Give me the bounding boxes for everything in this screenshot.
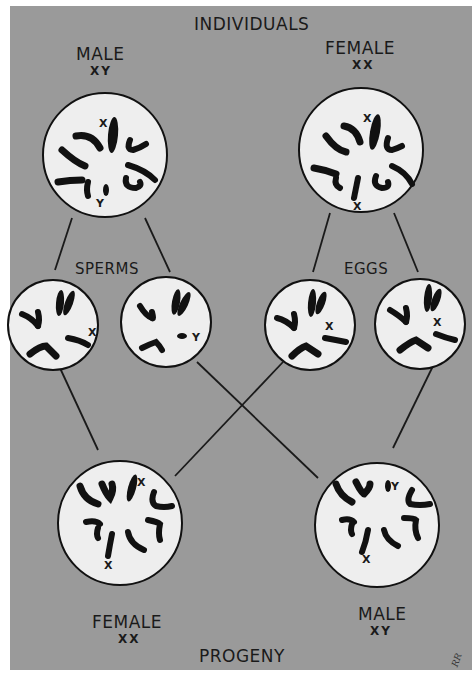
label-eggs: EGGS <box>344 260 388 278</box>
line-egg-1-to-female-progeny <box>175 362 283 476</box>
genotype-male-progeny: XY <box>370 624 392 638</box>
line-male-to-sperm-y <box>145 218 170 272</box>
title-individuals: INDIVIDUALS <box>194 14 309 34</box>
cell-sperm-x <box>8 280 98 370</box>
connector-lines <box>55 213 433 478</box>
cell-male-progeny <box>315 463 439 587</box>
egg-1-x-label: X <box>325 320 335 333</box>
male-parent-y-label: Y <box>96 197 106 210</box>
genotype-male-parent: XY <box>90 64 112 78</box>
female-parent-x2-label: X <box>353 200 363 213</box>
cell-female-progeny <box>58 461 182 585</box>
sex-determination-diagram <box>0 0 474 675</box>
male-parent-x-label: X <box>99 117 109 130</box>
egg-2-x-label: X <box>433 316 443 329</box>
cell-female-parent <box>299 88 423 212</box>
line-male-to-sperm-x <box>55 218 72 270</box>
cell-egg-1 <box>265 280 355 370</box>
label-male-progeny: MALE <box>358 604 407 624</box>
female-progeny-x2-label: X <box>104 559 114 572</box>
line-female-to-egg-2 <box>394 213 418 272</box>
line-female-to-egg-1 <box>313 213 330 272</box>
male-progeny-y-label: Y <box>391 480 401 493</box>
label-female-progeny: FEMALE <box>92 612 162 632</box>
label-sperms: SPERMS <box>75 260 139 278</box>
cell-sperm-y <box>121 277 211 367</box>
line-egg-2-to-male-progeny <box>393 366 433 448</box>
sperm-y-label: Y <box>192 331 202 344</box>
title-progeny: PROGENY <box>199 646 285 666</box>
female-progeny-x1-label: X <box>137 476 147 489</box>
line-sperm-y-to-male-progeny <box>197 362 318 478</box>
genotype-female-parent: XX <box>352 58 375 72</box>
label-male-parent: MALE <box>76 44 125 64</box>
genotype-female-progeny: XX <box>118 632 141 646</box>
label-female-parent: FEMALE <box>325 38 395 58</box>
cell-egg-2 <box>375 279 465 369</box>
female-parent-x1-label: X <box>363 112 373 125</box>
line-sperm-x-to-female-progeny <box>60 368 98 450</box>
sperm-x-label: X <box>88 326 98 339</box>
male-progeny-x-label: X <box>362 553 372 566</box>
